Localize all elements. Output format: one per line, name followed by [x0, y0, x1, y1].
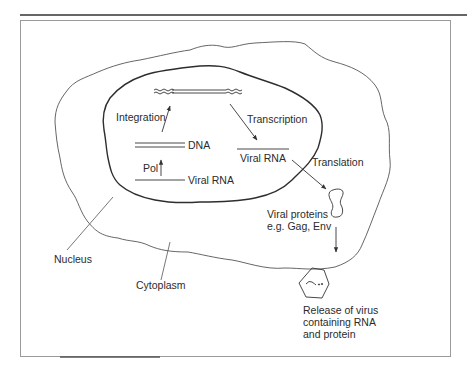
cytoplasm-pointer [161, 242, 170, 280]
integrated-dna-icon [154, 89, 242, 94]
nucleus-label: Nucleus [54, 253, 92, 265]
release-label-line1: Release of virus [303, 304, 378, 316]
dna-label: DNA [188, 139, 210, 151]
transcribed-rna-label: Viral RNA [240, 152, 286, 164]
nucleus-pointer [67, 197, 113, 250]
translation-label: Translation [312, 156, 364, 168]
release-label-line2: containing RNA [303, 316, 376, 328]
viral-proteins-label: Viral proteins [267, 208, 328, 220]
integration-label: Integration [116, 111, 166, 123]
cytoplasm-label: Cytoplasm [136, 279, 186, 291]
pol-label: Pol [143, 162, 158, 174]
virus-particle-icon [299, 268, 329, 298]
viral-protein-icon [329, 189, 343, 217]
transcription-label: Transcription [247, 113, 307, 125]
viral-proteins-examples: e.g. Gag, Env [267, 220, 331, 232]
viral-rna-label: Viral RNA [188, 174, 234, 186]
retrovirus-lifecycle-diagram: Integration Transcription DNA Pol Viral … [0, 0, 467, 368]
release-label-line3: and protein [303, 328, 356, 340]
